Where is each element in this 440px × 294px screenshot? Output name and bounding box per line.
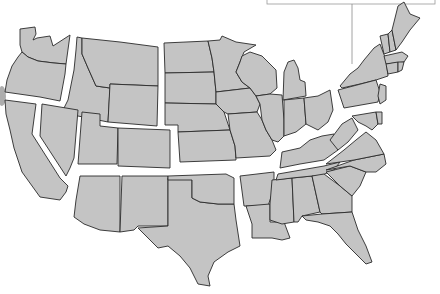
state-oh[interactable] <box>304 90 333 130</box>
state-wy[interactable] <box>108 84 158 126</box>
state-ct[interactable] <box>386 62 398 74</box>
state-ny[interactable] <box>340 44 388 88</box>
us-regions-map <box>0 0 440 294</box>
state-nm[interactable] <box>120 176 168 232</box>
state-fl[interactable] <box>302 212 372 264</box>
region-southwest <box>74 174 240 286</box>
state-mi[interactable] <box>283 60 306 100</box>
state-mt[interactable] <box>82 38 158 88</box>
state-ar[interactable] <box>240 172 274 206</box>
state-sd[interactable] <box>165 72 216 104</box>
state-co[interactable] <box>118 128 170 168</box>
region-pacific-northwest <box>5 27 70 101</box>
state-ks[interactable] <box>178 130 236 162</box>
state-nj[interactable] <box>378 84 386 104</box>
state-nd[interactable] <box>164 41 214 73</box>
state-me[interactable] <box>392 2 420 50</box>
state-az[interactable] <box>74 176 120 232</box>
state-in[interactable] <box>284 98 306 136</box>
state-ms[interactable] <box>270 178 294 224</box>
state-ri[interactable] <box>398 62 404 72</box>
region-northeast <box>338 2 420 108</box>
callout-box <box>267 0 435 4</box>
